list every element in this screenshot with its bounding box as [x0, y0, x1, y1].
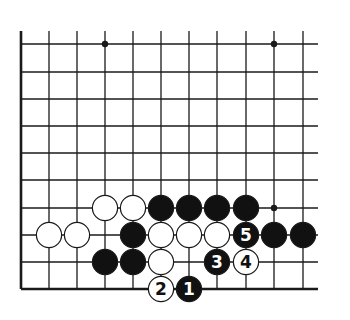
black-stone	[120, 249, 145, 274]
black-stone-move-5: 5	[233, 222, 258, 247]
white-stone-icon	[148, 222, 173, 247]
black-stone	[92, 249, 117, 274]
move-number-label: 5	[240, 225, 252, 245]
black-stone-icon	[120, 222, 145, 247]
white-stone	[120, 195, 145, 220]
black-stone-icon	[148, 195, 173, 220]
black-stone	[176, 195, 201, 220]
white-stone-icon	[36, 222, 61, 247]
star-point	[271, 41, 277, 47]
go-board: 53421	[0, 0, 350, 320]
white-stone-move-4: 4	[233, 249, 258, 274]
move-number-label: 1	[183, 279, 195, 299]
black-stone-icon	[92, 249, 117, 274]
black-stone-icon	[204, 195, 229, 220]
white-stone-icon	[148, 249, 173, 274]
white-stone-icon	[176, 222, 201, 247]
black-stone	[204, 195, 229, 220]
white-stone-icon	[204, 222, 229, 247]
black-stone	[148, 195, 173, 220]
move-number-label: 3	[211, 252, 223, 272]
white-stone	[204, 222, 229, 247]
star-point	[271, 205, 277, 211]
move-number-label: 2	[155, 279, 167, 299]
white-stone	[148, 249, 173, 274]
black-stone-icon	[290, 222, 315, 247]
white-stone	[176, 222, 201, 247]
black-stone	[233, 195, 258, 220]
black-stone	[261, 222, 286, 247]
white-stone	[148, 222, 173, 247]
white-stone-icon	[64, 222, 89, 247]
white-stone	[36, 222, 61, 247]
black-stone-icon	[120, 249, 145, 274]
black-stone-icon	[176, 195, 201, 220]
black-stone	[120, 222, 145, 247]
white-stone	[64, 222, 89, 247]
white-stone-icon	[120, 195, 145, 220]
black-stone-icon	[233, 195, 258, 220]
star-point	[102, 41, 108, 47]
move-number-label: 4	[240, 252, 252, 272]
white-stone	[92, 195, 117, 220]
black-stone-move-1: 1	[176, 276, 201, 301]
black-stone	[290, 222, 315, 247]
board-grid	[21, 31, 318, 289]
black-stone-move-3: 3	[204, 249, 229, 274]
black-stone-icon	[261, 222, 286, 247]
white-stone-icon	[92, 195, 117, 220]
white-stone-move-2: 2	[148, 276, 173, 301]
